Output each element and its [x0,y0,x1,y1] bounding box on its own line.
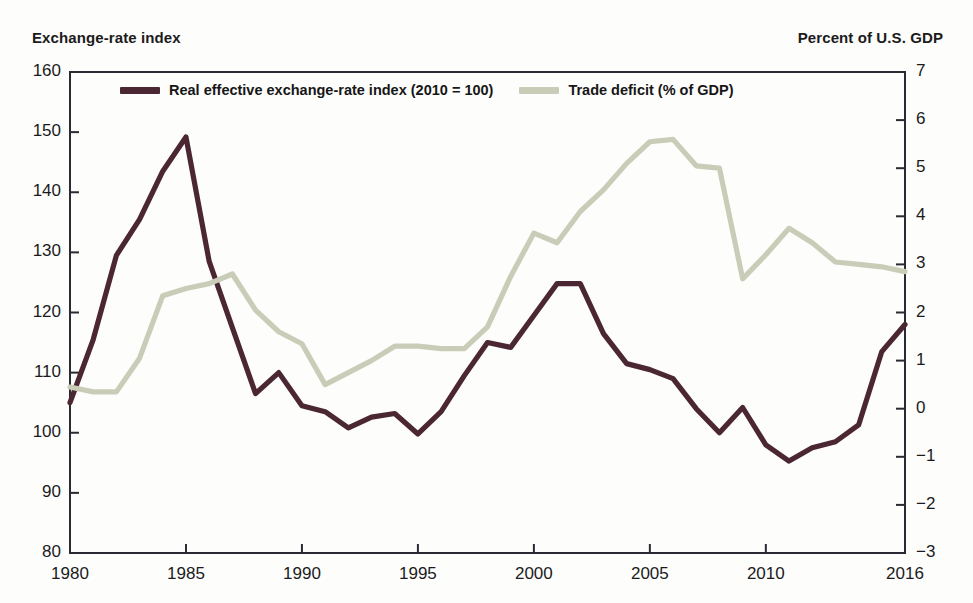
y-tick-label-left: 140 [3,181,61,201]
y-tick-label-right: 1 [916,350,966,370]
x-tick-label: 2010 [731,564,801,584]
legend-swatch-exchange-rate [120,87,160,94]
y-tick-label-left: 130 [3,241,61,261]
y-tick-label-right: 5 [916,157,966,177]
y-tick-label-left: 110 [3,362,61,382]
y-tick-label-right: 7 [916,61,966,81]
legend-swatch-trade-deficit [519,87,559,94]
y-tick-label-left: 160 [3,61,61,81]
y-tick-label-right: 4 [916,205,966,225]
x-tick-label: 1985 [151,564,221,584]
chart-legend: Real effective exchange-rate index (2010… [120,82,734,98]
y-tick-label-left: 90 [3,482,61,502]
y-tick-label-right: −3 [916,542,966,562]
y-tick-label-left: 150 [3,121,61,141]
legend-item-trade-deficit: Trade deficit (% of GDP) [519,82,733,98]
y-tick-label-left: 120 [3,302,61,322]
x-tick-label: 1980 [35,564,105,584]
x-tick-label: 2000 [499,564,569,584]
y-tick-label-right: 3 [916,253,966,273]
chart-figure: Exchange-rate index Percent of U.S. GDP … [0,0,973,603]
y-tick-label-left: 100 [3,422,61,442]
series-line-exchange-rate [70,137,905,461]
plot-frame [70,72,905,553]
legend-item-exchange-rate: Real effective exchange-rate index (2010… [120,82,493,98]
y-tick-label-right: −2 [916,494,966,514]
legend-label-trade-deficit: Trade deficit (% of GDP) [568,82,733,98]
y-tick-label-right: 2 [916,302,966,322]
y-tick-label-right: −1 [916,446,966,466]
x-tick-label: 1990 [267,564,337,584]
x-tick-label: 1995 [383,564,453,584]
y-tick-label-left: 80 [3,542,61,562]
legend-label-exchange-rate: Real effective exchange-rate index (2010… [169,82,493,98]
y-tick-label-right: 6 [916,109,966,129]
y-tick-label-right: 0 [916,398,966,418]
x-tick-label: 2016 [870,564,940,584]
x-tick-label: 2005 [615,564,685,584]
